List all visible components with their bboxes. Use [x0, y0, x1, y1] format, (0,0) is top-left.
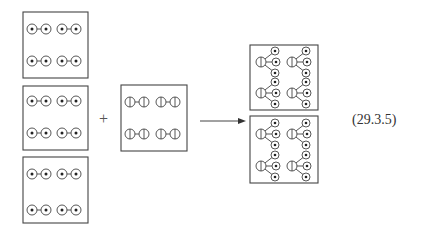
- equation-number: (29.3.5): [352, 112, 396, 128]
- dotted-circle-dimer-icon: [27, 169, 81, 215]
- reactant-a-box-1: [23, 12, 88, 78]
- reactant-b-box: [121, 85, 187, 151]
- dotted-circle-dimer-icon: [27, 96, 81, 138]
- product-box-1: [250, 45, 318, 110]
- branched-molecule-icon: [256, 47, 311, 108]
- split-circle-dimer-icon: [125, 97, 180, 139]
- dotted-circle-dimer-icon: [27, 24, 81, 66]
- reaction-arrow-icon: [200, 118, 246, 124]
- reactant-a-box-2: [23, 86, 88, 150]
- product-box-2: [250, 116, 318, 183]
- branched-molecule-icon: [256, 119, 311, 181]
- plus-operator: +: [99, 110, 108, 128]
- reactant-a-box-3: [23, 157, 88, 223]
